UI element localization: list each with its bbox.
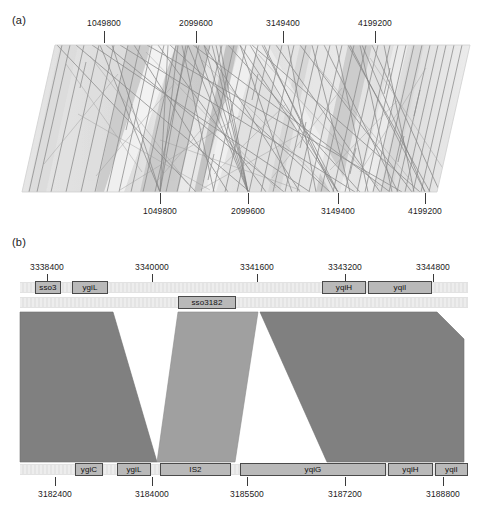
panel-b-bottom-tick-label-4: 3187200 xyxy=(328,489,362,499)
gene-box-yqiI-top[interactable]: yqiI xyxy=(368,281,432,294)
panel-a-top-tick-label-1: 1049800 xyxy=(87,18,121,28)
panel-a-bottom-tick-label-1: 1049800 xyxy=(143,206,177,216)
gene-box-sso3182[interactable]: sso3182 xyxy=(178,296,236,309)
panel-b-bottom-tick-label-1: 3182400 xyxy=(38,489,72,499)
alignment-block-forward-left xyxy=(20,312,157,462)
panel-b-top-tick-label-3: 3341600 xyxy=(240,262,274,272)
panel-a-top-tick-label-4: 4199200 xyxy=(358,18,392,28)
gene-box-ygiC-bottom[interactable]: ygiC xyxy=(75,463,103,476)
panel-b-bottom-tick-mark-4 xyxy=(345,477,346,486)
panel-a-dotplot xyxy=(0,44,480,194)
panel-b-alignment-svg xyxy=(0,311,480,463)
panel-a-bottom-tick-mark-2 xyxy=(248,193,249,204)
gene-box-yqiH-top[interactable]: yqiH xyxy=(322,281,366,294)
panel-a-top-tick-label-3: 3149400 xyxy=(266,18,300,28)
figure-root: (a) 1049800 2099600 3149400 4199200 xyxy=(0,0,480,510)
panel-a-svg xyxy=(0,44,480,194)
panel-a-bottom-tick-label-3: 3149400 xyxy=(321,206,355,216)
panel-b-bottom-tick-mark-1 xyxy=(55,477,56,486)
panel-a-bottom-tick-label-4: 4199200 xyxy=(408,206,442,216)
gene-box-yqiI-bottom[interactable]: yqiI xyxy=(435,463,468,476)
panel-a-bottom-tick-mark-1 xyxy=(160,193,161,204)
panel-b-bottom-tick-label-3: 3185500 xyxy=(230,489,264,499)
panel-a-bottom-tick-mark-4 xyxy=(425,193,426,204)
panel-b-bottom-tick-label-5: 3188800 xyxy=(426,489,460,499)
panel-b-bottom-tick-label-2: 3184000 xyxy=(135,489,169,499)
gene-box-sso3[interactable]: sso3 xyxy=(35,281,61,294)
panel-a-top-tick-mark-1 xyxy=(104,31,105,43)
panel-b-label: (b) xyxy=(12,236,26,248)
alignment-block-forward-right xyxy=(260,312,464,462)
panel-b-top-tick-label-4: 3343200 xyxy=(328,262,362,272)
gene-box-yqiG-bottom[interactable]: yqiG xyxy=(240,463,386,476)
panel-a-label: (a) xyxy=(12,14,26,26)
panel-a-top-tick-mark-4 xyxy=(375,31,376,43)
panel-b-alignment-area xyxy=(0,311,480,463)
panel-b-bottom-tick-mark-3 xyxy=(247,477,248,486)
panel-b-top-track-bar-2 xyxy=(20,297,468,308)
panel-b-bottom-tick-mark-2 xyxy=(152,477,153,486)
gene-box-ygiL-bottom[interactable]: ygiL xyxy=(117,463,151,476)
panel-b-bottom-tick-mark-5 xyxy=(443,477,444,486)
panel-a-top-tick-label-2: 2099600 xyxy=(179,18,213,28)
panel-b-top-tick-label-2: 3340000 xyxy=(135,262,169,272)
gene-box-IS2-bottom[interactable]: IS2 xyxy=(160,463,231,476)
gene-box-yqiH-bottom[interactable]: yqiH xyxy=(388,463,433,476)
panel-b-top-tick-label-5: 3344800 xyxy=(416,262,450,272)
panel-a-top-tick-mark-3 xyxy=(283,31,284,43)
panel-a-top-tick-mark-2 xyxy=(196,31,197,43)
alignment-block-inverted-middle xyxy=(157,312,258,462)
panel-a-bottom-tick-label-2: 2099600 xyxy=(231,206,265,216)
panel-b-top-tick-label-1: 3338400 xyxy=(30,262,64,272)
panel-a-bottom-tick-mark-3 xyxy=(338,193,339,204)
gene-box-ygiL-top[interactable]: ygiL xyxy=(72,281,108,294)
